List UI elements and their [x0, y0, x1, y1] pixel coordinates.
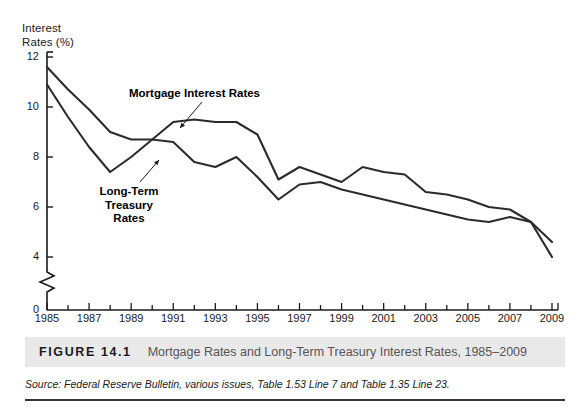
x-tick-label-1989: 1989 — [114, 312, 148, 324]
series-label-mortgage: Mortgage Interest Rates — [129, 87, 260, 101]
x-tick-label-2003: 2003 — [409, 312, 443, 324]
series-label-treasury: Long-TermTreasuryRates — [85, 185, 173, 226]
y-tick-label-8: 8 — [19, 150, 39, 162]
x-tick-label-1991: 1991 — [156, 312, 190, 324]
chart-plot-area — [0, 0, 583, 330]
x-tick-label-2005: 2005 — [451, 312, 485, 324]
chart-axes — [40, 52, 558, 310]
x-tick-label-2007: 2007 — [493, 312, 527, 324]
y-axis-title: InterestRates (%) — [22, 22, 74, 49]
x-tick-label-2001: 2001 — [367, 312, 401, 324]
series-label-treasury-line3: Rates — [113, 212, 144, 224]
x-tick-label-1999: 1999 — [325, 312, 359, 324]
x-tick-label-1987: 1987 — [72, 312, 106, 324]
figure-caption-text: Mortgage Rates and Long-Term Treasury In… — [148, 345, 527, 359]
series-label-treasury-line2: Treasury — [105, 199, 153, 211]
x-tick-label-1993: 1993 — [198, 312, 232, 324]
x-tick-label-2009: 2009 — [535, 312, 569, 324]
y-tick-label-4: 4 — [19, 250, 39, 262]
y-tick-label-12: 12 — [19, 50, 39, 62]
figure-bottom-rule — [25, 399, 565, 401]
leader-line-mortgage — [180, 102, 202, 128]
series-label-treasury-line1: Long-Term — [99, 185, 158, 197]
y-tick-label-10: 10 — [19, 100, 39, 112]
x-tick-label-1997: 1997 — [283, 312, 317, 324]
y-tick-label-6: 6 — [19, 200, 39, 212]
figure-source-note: Source: Federal Reserve Bulletin, variou… — [25, 378, 565, 390]
x-tick-label-1985: 1985 — [30, 312, 64, 324]
figure-caption-bar: FIGURE 14.1 Mortgage Rates and Long-Term… — [25, 337, 565, 367]
figure-root: InterestRates (%) Mortgage Interest Rate… — [0, 0, 583, 412]
y-axis-title-line2: Rates (%) — [22, 36, 74, 48]
figure-number: FIGURE 14.1 — [39, 345, 132, 359]
series-line-long-term-treasury-rates — [47, 85, 552, 258]
line-chart-svg — [0, 0, 583, 330]
y-axis-title-line1: Interest — [22, 22, 61, 34]
leader-line-treasury — [140, 160, 159, 182]
chart-series — [47, 67, 552, 257]
x-tick-label-1995: 1995 — [240, 312, 274, 324]
